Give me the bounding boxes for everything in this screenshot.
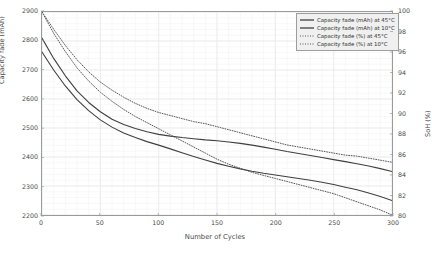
y-axis-label-right: SoH (%): [424, 110, 432, 137]
tick-label: 2700: [14, 66, 38, 73]
tick-label: 98: [398, 28, 418, 35]
tick-label: 90: [398, 110, 418, 117]
chart-legend: Capacity fade (mAh) at 45°CCapacity fade…: [296, 13, 399, 51]
tick-label: 96: [398, 48, 418, 55]
solid-line-icon: [299, 24, 315, 32]
tick-label: 200: [261, 219, 291, 226]
legend-item[interactable]: Capacity fade (%) at 10°C: [299, 40, 395, 48]
tick-label: 2500: [14, 124, 38, 131]
x-axis-label: Number of Cycles: [0, 233, 430, 241]
tick-label: 82: [398, 192, 418, 199]
tick-label: 2600: [14, 95, 38, 102]
legend-item[interactable]: Capacity fade (%) at 45°C: [299, 32, 395, 40]
dotted-line-icon: [299, 32, 315, 40]
series-line: [42, 52, 392, 200]
legend-label: Capacity fade (%) at 45°C: [317, 32, 387, 40]
legend-label: Capacity fade (mAh) at 45°C: [317, 16, 395, 24]
legend-item[interactable]: Capacity fade (mAh) at 45°C: [299, 16, 395, 24]
tick-label: 100: [143, 219, 173, 226]
legend-item[interactable]: Capacity fade (mAh) at 10°C: [299, 24, 395, 32]
tick-label: 2300: [14, 183, 38, 190]
tick-label: 250: [319, 219, 349, 226]
legend-label: Capacity fade (mAh) at 10°C: [317, 24, 395, 32]
tick-label: 94: [398, 69, 418, 76]
tick-label: 0: [26, 219, 56, 226]
tick-label: 50: [85, 219, 115, 226]
tick-label: 2200: [14, 212, 38, 219]
tick-label: 86: [398, 151, 418, 158]
y-axis-label-left: Capacity fade (mAh): [0, 16, 6, 84]
dotted-line-icon: [299, 40, 315, 48]
tick-label: 92: [398, 89, 418, 96]
tick-label: 2800: [14, 36, 38, 43]
tick-label: 300: [378, 219, 408, 226]
tick-label: 2900: [14, 7, 38, 14]
series-line: [42, 38, 392, 171]
tick-label: 84: [398, 171, 418, 178]
tick-label: 80: [398, 212, 418, 219]
solid-line-icon: [299, 16, 315, 24]
tick-label: 100: [398, 7, 418, 14]
legend-label: Capacity fade (%) at 10°C: [317, 40, 387, 48]
tick-label: 88: [398, 130, 418, 137]
tick-label: 2400: [14, 153, 38, 160]
tick-label: 150: [202, 219, 232, 226]
